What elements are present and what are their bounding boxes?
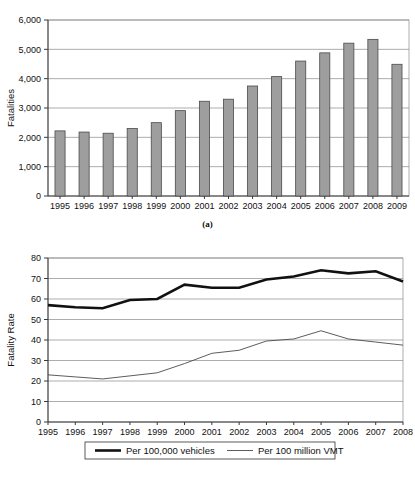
bar-2002 [223,99,233,196]
xtick-label-b: 1999 [147,427,167,437]
bar-1998 [127,129,137,196]
xtick-label-b: 1996 [65,427,85,437]
ytick-label-b: 0 [36,417,41,427]
line-chart-fatality-rate: 0102030405060708019951996199719981999200… [0,240,415,470]
bar-1995 [55,131,65,196]
bar-2001 [199,101,209,196]
xtick-label-b: 2001 [202,427,222,437]
xtick-label-a: 2001 [194,201,214,211]
ytick-label-a: 5,000 [18,45,41,55]
bar-1997 [103,133,113,196]
xtick-label-b: 2007 [366,427,386,437]
xtick-label-b: 2002 [229,427,249,437]
y-axis-title-b: Fatality Rate [5,313,16,366]
bar-2009 [392,64,402,196]
xtick-label-a: 1999 [146,201,166,211]
y-axis-title-a: Fatalities [5,89,16,127]
xtick-label-a: 2006 [315,201,335,211]
ytick-label-a: 2,000 [18,133,41,143]
series-line-2 [48,331,403,379]
ytick-label-b: 10 [31,397,41,407]
panel-a-caption: (a) [0,219,415,229]
ytick-label-a: 3,000 [18,103,41,113]
xtick-label-a: 2003 [243,201,263,211]
legend-label-2: Per 100 million VMT [258,445,344,456]
bar-1996 [79,132,89,196]
bar-2004 [272,77,282,196]
xtick-label-b: 2005 [311,427,331,437]
ytick-label-b: 50 [31,315,41,325]
figure-container: 01,0002,0003,0004,0005,0006,000199519961… [0,0,415,491]
ytick-label-b: 30 [31,356,41,366]
xtick-label-b: 1997 [93,427,113,437]
bar-1999 [151,123,161,196]
xtick-label-a: 1996 [74,201,94,211]
ytick-label-a: 1,000 [18,162,41,172]
ytick-label-a: 0 [36,191,41,201]
chart-panel-b: 0102030405060708019951996199719981999200… [0,240,415,491]
xtick-label-a: 2004 [267,201,287,211]
xtick-label-a: 2007 [339,201,359,211]
ytick-label-a: 4,000 [18,74,41,84]
xtick-label-b: 2004 [284,427,304,437]
bar-2008 [368,39,378,196]
chart-panel-a: 01,0002,0003,0004,0005,0006,000199519961… [0,0,415,240]
series-line-1 [48,270,403,308]
bar-chart-fatalities: 01,0002,0003,0004,0005,0006,000199519961… [0,0,415,215]
xtick-label-a: 2002 [218,201,238,211]
bar-2006 [320,53,330,196]
xtick-label-b: 2000 [175,427,195,437]
xtick-label-b: 2003 [256,427,276,437]
ytick-label-b: 60 [31,294,41,304]
ytick-label-b: 40 [31,335,41,345]
ytick-label-b: 70 [31,274,41,284]
xtick-label-a: 1998 [122,201,142,211]
xtick-label-b: 2008 [393,427,413,437]
xtick-label-a: 1995 [50,201,70,211]
bar-2000 [175,111,185,196]
bar-2005 [296,61,306,196]
xtick-label-b: 1998 [120,427,140,437]
bar-2007 [344,43,354,196]
xtick-label-a: 1997 [98,201,118,211]
xtick-label-b: 2006 [338,427,358,437]
ytick-label-b: 20 [31,376,41,386]
bar-2003 [248,86,258,196]
xtick-label-a: 2000 [170,201,190,211]
ytick-label-b: 80 [31,253,41,263]
ytick-label-a: 6,000 [18,15,41,25]
xtick-label-b: 1995 [38,427,58,437]
legend-label-1: Per 100,000 vehicles [126,445,215,456]
xtick-label-a: 2008 [363,201,383,211]
xtick-label-a: 2009 [387,201,407,211]
xtick-label-a: 2005 [291,201,311,211]
